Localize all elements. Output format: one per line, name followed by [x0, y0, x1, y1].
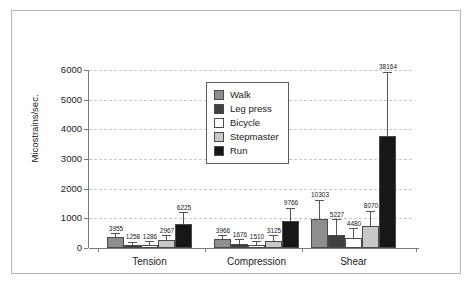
error-bar-cap — [252, 241, 261, 242]
legend-item[interactable]: Stepmaster — [214, 130, 279, 144]
y-tick-label: 6000 — [42, 65, 82, 75]
chart-page: Micostrains/sec. 39551258128629676225396… — [0, 0, 472, 284]
y-axis-line — [88, 70, 89, 248]
legend-item-label: Bicycle — [230, 118, 260, 128]
legend-item-label: Walk — [230, 90, 251, 100]
y-tick-mark — [84, 248, 88, 249]
legend-item[interactable]: Run — [214, 144, 279, 158]
y-tick-mark — [84, 218, 88, 219]
error-bar-cap — [128, 242, 137, 243]
error-bar-line — [353, 229, 354, 238]
error-bar-line — [387, 73, 388, 136]
x-axis-group-tick — [302, 248, 303, 252]
x-axis-group-tick — [98, 248, 99, 252]
bar-value-label: 5227 — [317, 212, 357, 219]
bar-value-label: 3955 — [96, 226, 136, 233]
legend-swatch-icon — [214, 118, 224, 128]
bar[interactable] — [175, 224, 192, 248]
bar[interactable] — [379, 136, 396, 248]
bar[interactable] — [214, 239, 231, 248]
error-bar-cap — [269, 235, 278, 236]
x-axis-group-tick — [205, 248, 206, 252]
bar-value-label: 6225 — [164, 205, 204, 212]
chart-frame: Micostrains/sec. 39551258128629676225396… — [11, 10, 461, 274]
error-bar-line — [370, 212, 371, 227]
error-bar-cap — [383, 72, 392, 73]
bar[interactable] — [265, 241, 282, 248]
y-tick-label: 3000 — [42, 154, 82, 164]
category-label: Shear — [291, 256, 416, 267]
error-bar-cap — [366, 211, 375, 212]
error-bar-cap — [145, 241, 154, 242]
y-tick-label: 5000 — [42, 95, 82, 105]
y-tick-mark — [84, 159, 88, 160]
legend-item[interactable]: Walk — [214, 88, 279, 102]
legend: WalkLeg pressBicycleStepmasterRun — [206, 82, 289, 164]
legend-swatch-icon — [214, 90, 224, 100]
bar[interactable] — [311, 219, 328, 248]
error-bar-line — [183, 213, 184, 224]
x-axis-line — [89, 248, 419, 249]
bar[interactable] — [282, 221, 299, 248]
y-tick-label: 1000 — [42, 213, 82, 223]
bar[interactable] — [345, 238, 362, 248]
error-bar-cap — [349, 228, 358, 229]
bar[interactable] — [158, 240, 175, 248]
bar-value-label: 9766 — [271, 200, 311, 207]
y-tick-mark — [84, 70, 88, 71]
y-axis-tick-labels: 0100020003000400050006000 — [34, 11, 82, 284]
legend-item[interactable]: Bicycle — [214, 116, 279, 130]
error-bar-cap — [286, 208, 295, 209]
legend-item-label: Leg press — [230, 104, 272, 114]
legend-swatch-icon — [214, 132, 224, 142]
legend-swatch-icon — [214, 104, 224, 114]
bar[interactable] — [328, 235, 345, 248]
error-bar-cap — [162, 235, 171, 236]
y-tick-mark — [84, 129, 88, 130]
error-bar-line — [290, 209, 291, 221]
y-tick-label: 4000 — [42, 124, 82, 134]
x-axis-end-tick — [416, 248, 417, 252]
y-tick-label: 0 — [42, 243, 82, 253]
bar-value-label: 10303 — [300, 192, 340, 199]
error-bar-cap — [179, 212, 188, 213]
y-tick-mark — [84, 189, 88, 190]
legend-item-label: Stepmaster — [230, 132, 279, 142]
y-tick-mark — [84, 100, 88, 101]
legend-item-label: Run — [230, 146, 247, 156]
legend-swatch-icon — [214, 146, 224, 156]
bar-group: 1030352274480807038164 — [311, 70, 396, 248]
bar-value-label: 38164 — [368, 64, 408, 71]
y-tick-label: 2000 — [42, 184, 82, 194]
bar[interactable] — [362, 226, 379, 248]
legend-item[interactable]: Leg press — [214, 102, 279, 116]
error-bar-cap — [315, 200, 324, 201]
bar-group: 39551258128629676225 — [107, 70, 192, 248]
